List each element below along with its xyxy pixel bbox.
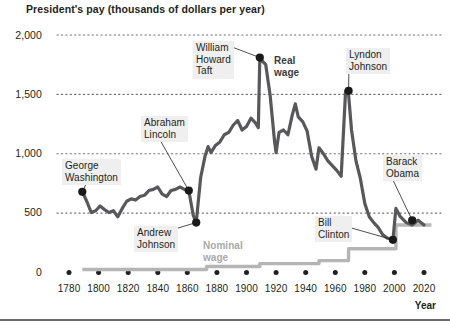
y-tick-label-500: 500 [0, 206, 42, 218]
footer-divider [0, 319, 450, 321]
chart-canvas: President's pay (thousands of dollars pe… [0, 0, 450, 327]
y-tick-label-2000: 2,000 [0, 29, 42, 41]
real-wage-line [82, 58, 424, 240]
annotation-george-washington: George Washington [62, 159, 121, 185]
annotation-william-howard-taft: William Howard Taft [193, 41, 234, 79]
annotation-andrew-johnson: Andrew Johnson [134, 226, 178, 252]
annotation-bill-clinton: Bill Clinton [315, 216, 352, 242]
data-point-andrew-johnson [192, 219, 200, 227]
annotation-lyndon-johnson: Lyndon Johnson [346, 48, 390, 74]
nominal-wage-label: Nominal wage [203, 240, 243, 263]
data-point-abraham-lincoln [185, 187, 193, 195]
data-point-lyndon-johnson [345, 87, 353, 95]
annotation-barack-obama: Barack Obama [383, 155, 422, 181]
x-tick-label-2020: 2020 [407, 283, 441, 294]
data-point-george-washington [78, 188, 86, 196]
real-wage-label: Real wage [274, 55, 299, 78]
annotation-leader-lines [82, 47, 412, 240]
data-point-barack-obama [408, 216, 416, 224]
annotation-abraham-lincoln: Abraham Lincoln [141, 116, 188, 142]
x-axis-title: Year [415, 300, 436, 311]
y-tick-label-1500: 1,500 [0, 88, 42, 100]
y-tick-label-1000: 1,000 [0, 147, 42, 159]
data-point-william-howard-taft [256, 54, 264, 62]
annotation-dots [78, 54, 416, 244]
data-point-bill-clinton [389, 236, 397, 244]
y-tick-label-0: 0 [0, 266, 42, 278]
